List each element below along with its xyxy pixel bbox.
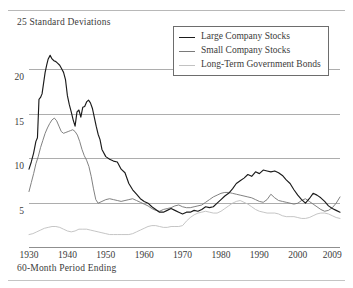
- x-tick-label-1980: 1980: [211, 251, 230, 261]
- x-tick-label-2000: 2000: [288, 251, 307, 261]
- legend-swatch-icon: [179, 37, 195, 38]
- x-tick-label-1950: 1950: [96, 251, 115, 261]
- y-tick-label-15: 15: [15, 118, 25, 128]
- x-axis-title: 60-Month Period Ending: [17, 263, 116, 273]
- x-axis-line: [29, 247, 340, 248]
- bottom-rule: [8, 280, 345, 281]
- legend-label: Small Company Stocks: [201, 46, 290, 56]
- legend-label: Long-Term Government Bonds: [201, 60, 321, 70]
- chart-figure: 25 Standard Deviations 5101520 193019401…: [0, 0, 353, 288]
- y-tick-label-20: 20: [15, 73, 25, 83]
- legend-item-0: Large Company Stocks: [179, 30, 321, 44]
- y-tick-label-10: 10: [15, 162, 25, 172]
- series-line-long-term-government-bonds: [29, 201, 340, 235]
- x-tick-label-1940: 1940: [58, 251, 77, 261]
- legend-item-2: Long-Term Government Bonds: [179, 58, 321, 72]
- x-tick-label-1990: 1990: [250, 251, 269, 261]
- y-tick-label-5: 5: [19, 207, 24, 217]
- x-tick-label-2009: 2009: [323, 251, 342, 261]
- series-line-large-company-stocks: [29, 55, 340, 214]
- legend-swatch-icon: [179, 51, 195, 52]
- legend-item-1: Small Company Stocks: [179, 44, 321, 58]
- series-line-small-company-stocks: [29, 118, 340, 211]
- x-tick-label-1930: 1930: [20, 251, 39, 261]
- legend-swatch-icon: [179, 65, 195, 66]
- x-tick-label-1970: 1970: [173, 251, 192, 261]
- top-rule: [8, 10, 345, 11]
- chart-legend: Large Company StocksSmall Company Stocks…: [173, 26, 329, 76]
- legend-label: Large Company Stocks: [201, 32, 290, 42]
- x-tick-label-1960: 1960: [135, 251, 154, 261]
